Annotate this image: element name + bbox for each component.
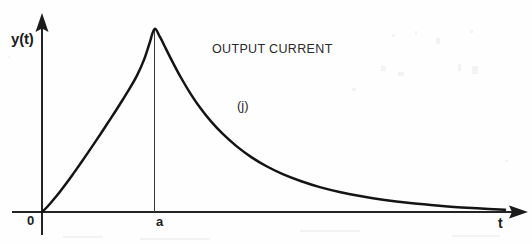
x-axis-label: t xyxy=(498,216,503,230)
curve-name-label: (j) xyxy=(237,99,249,112)
x-tick-label-a: a xyxy=(156,215,163,228)
origin-label: 0 xyxy=(27,214,34,227)
plot-canvas xyxy=(0,0,532,244)
y-axis-label: y(t) xyxy=(11,31,34,46)
chart-title-annotation: OUTPUT CURRENT xyxy=(212,43,333,56)
output-current-curve xyxy=(42,29,505,212)
output-current-figure: y(t) 0 a t OUTPUT CURRENT (j) xyxy=(0,0,532,244)
